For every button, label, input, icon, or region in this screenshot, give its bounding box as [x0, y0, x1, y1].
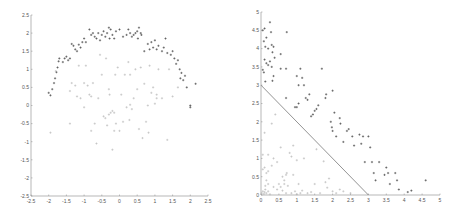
plus-marker-icon	[262, 154, 264, 156]
x-tick-label: -2.5	[27, 198, 36, 204]
plus-marker-icon	[271, 80, 273, 82]
plus-marker-icon	[269, 60, 271, 62]
x-tick-label: 2.5	[205, 198, 212, 204]
plus-marker-icon	[147, 132, 149, 134]
plus-marker-icon	[72, 45, 74, 47]
series-1	[49, 54, 179, 151]
plus-marker-icon	[292, 144, 294, 146]
plus-marker-icon	[319, 192, 321, 194]
plus-marker-icon	[172, 50, 174, 52]
plus-marker-icon	[265, 37, 267, 39]
plus-marker-icon	[290, 155, 292, 157]
y-tick-label: -2	[25, 175, 30, 181]
plus-marker-icon	[56, 66, 58, 68]
plus-marker-icon	[272, 75, 274, 77]
plus-marker-icon	[115, 123, 117, 125]
plus-marker-icon	[87, 84, 89, 86]
decision-boundary-line	[261, 85, 368, 195]
plus-marker-icon	[362, 135, 364, 137]
plus-marker-icon	[271, 44, 273, 46]
plus-marker-icon	[297, 102, 299, 104]
plus-marker-icon	[195, 83, 197, 85]
plus-marker-icon	[172, 95, 174, 97]
plus-marker-icon	[360, 143, 362, 145]
plus-marker-icon	[111, 149, 113, 151]
plus-marker-icon	[299, 192, 301, 194]
plus-marker-icon	[85, 65, 87, 67]
plus-marker-icon	[274, 113, 276, 115]
y-tick-label: 1.5	[22, 48, 29, 54]
left-scatter-plot: -2.5-2-1.5-1-0.500.511.522.5-2.5-2-1.5-1…	[20, 12, 211, 204]
plus-marker-icon	[305, 97, 307, 99]
plus-marker-icon	[265, 62, 267, 64]
plus-marker-icon	[189, 106, 191, 108]
x-tick-label: 1	[154, 198, 157, 204]
plus-marker-icon	[118, 28, 120, 30]
plus-marker-icon	[118, 130, 120, 132]
plus-marker-icon	[76, 50, 78, 52]
plus-marker-icon	[134, 32, 136, 34]
plus-marker-icon	[301, 77, 303, 79]
plus-marker-icon	[108, 37, 110, 39]
plus-marker-icon	[71, 82, 73, 84]
plus-marker-icon	[179, 77, 181, 79]
plus-marker-icon	[105, 57, 107, 59]
plus-marker-icon	[131, 108, 133, 110]
y-tick-label: 1	[26, 66, 29, 72]
x-tick-label: 0	[260, 197, 263, 203]
plus-marker-icon	[148, 65, 150, 67]
plus-marker-icon	[177, 59, 179, 61]
plus-marker-icon	[264, 188, 266, 190]
plus-marker-icon	[157, 68, 159, 70]
plus-marker-icon	[262, 168, 264, 170]
plus-marker-icon	[308, 93, 310, 95]
plus-marker-icon	[49, 132, 51, 134]
plus-marker-icon	[264, 185, 266, 187]
plus-marker-icon	[117, 66, 119, 68]
y-tick-label: 3.5	[252, 64, 259, 70]
plus-marker-icon	[120, 94, 122, 96]
plus-marker-icon	[106, 32, 108, 34]
plus-marker-icon	[65, 56, 67, 58]
x-tick-label: 2.5	[347, 197, 354, 203]
plus-marker-icon	[51, 88, 53, 90]
plus-marker-icon	[267, 154, 269, 156]
plus-marker-icon	[289, 152, 291, 154]
plus-marker-icon	[131, 36, 133, 38]
plus-marker-icon	[140, 66, 142, 68]
plus-marker-icon	[69, 57, 71, 59]
plus-marker-icon	[353, 144, 355, 146]
plus-marker-icon	[294, 106, 296, 108]
plus-marker-icon	[271, 66, 273, 68]
plus-marker-icon	[99, 54, 101, 56]
plus-marker-icon	[267, 183, 269, 185]
figure: -2.5-2-1.5-1-0.500.511.522.5-2.5-2-1.5-1…	[0, 0, 455, 215]
plus-marker-icon	[287, 185, 289, 187]
plus-marker-icon	[184, 75, 186, 77]
plus-marker-icon	[371, 161, 373, 163]
plus-marker-icon	[161, 50, 163, 52]
y-tick-label: 2.5	[22, 12, 29, 18]
plus-marker-icon	[294, 190, 296, 192]
plus-marker-icon	[133, 97, 135, 99]
plus-marker-icon	[138, 27, 140, 29]
plus-marker-icon	[314, 110, 316, 112]
plus-marker-icon	[330, 121, 332, 123]
plus-marker-icon	[285, 97, 287, 99]
plus-marker-icon	[147, 43, 149, 45]
plus-marker-icon	[94, 123, 96, 125]
plus-marker-icon	[325, 93, 327, 95]
plus-marker-icon	[425, 179, 427, 181]
plus-marker-icon	[156, 97, 158, 99]
plus-marker-icon	[85, 41, 87, 43]
plus-marker-icon	[102, 115, 104, 117]
plus-marker-icon	[143, 50, 145, 52]
plus-marker-icon	[78, 44, 80, 46]
y-tick-label: 0.5	[252, 174, 259, 180]
y-tick-label: 5	[256, 9, 259, 15]
plus-marker-icon	[265, 172, 267, 174]
plus-marker-icon	[71, 43, 73, 45]
plus-marker-icon	[297, 84, 299, 86]
plus-marker-icon	[69, 90, 71, 92]
plus-marker-icon	[274, 57, 276, 59]
